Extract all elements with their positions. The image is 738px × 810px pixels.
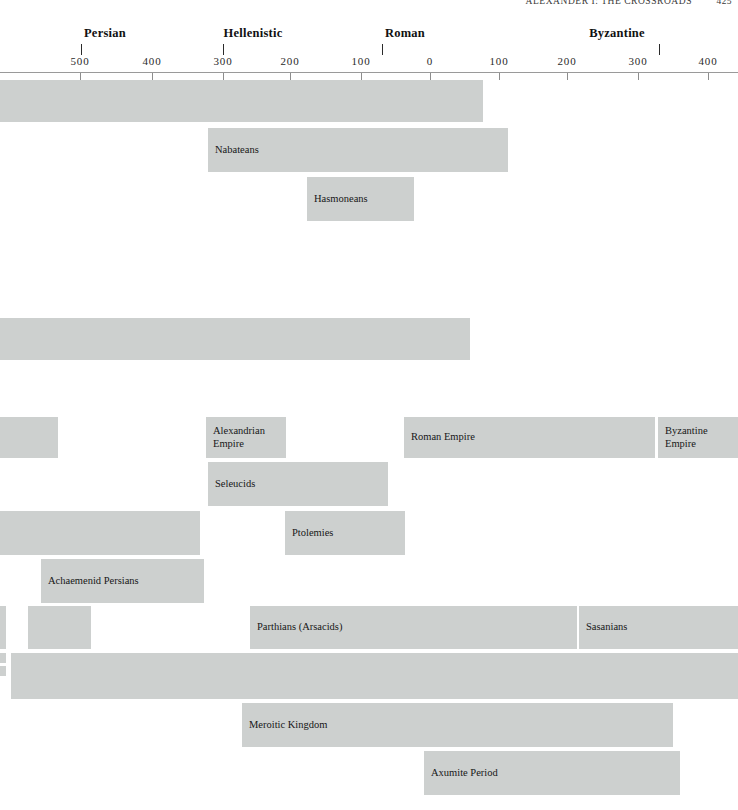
timeline-bar-label: Achaemenid Persians	[48, 575, 139, 588]
axis-tick-label: 200	[280, 55, 299, 67]
axis-tick	[290, 73, 291, 80]
era-label: Byzantine	[589, 26, 645, 41]
axis-tick-label: 400	[698, 55, 717, 67]
timeline-bar: Nabateans	[208, 128, 508, 172]
timeline-bar: Meroitic Kingdom	[242, 703, 673, 747]
timeline-bar: Hasmoneans	[307, 177, 414, 221]
timeline-bar-label: Roman Empire	[411, 431, 475, 444]
axis-tick	[80, 73, 81, 80]
timeline-bar-label: Seleucids	[215, 478, 255, 491]
timeline-bar-unlabeled	[0, 417, 58, 458]
axis-tick	[223, 73, 224, 80]
era-label: Roman	[385, 26, 425, 41]
timeline-bar-unlabeled	[0, 666, 6, 676]
timeline-bar: Axumite Period	[424, 751, 680, 795]
timeline-bar-label: Alexandrian Empire	[213, 425, 265, 450]
era-tick	[382, 44, 383, 55]
axis-tick-label: 100	[351, 55, 370, 67]
timeline-bar-unlabeled	[11, 653, 738, 699]
era-tick	[659, 44, 660, 55]
timeline-bar-label: Axumite Period	[431, 767, 498, 780]
axis-tick-label: 300	[213, 55, 232, 67]
era-label: Hellenistic	[224, 26, 283, 41]
timeline-bar-label: Sasanians	[586, 621, 627, 634]
timeline-bar-label: Nabateans	[215, 144, 259, 157]
timeline-chart: PersianHellenisticRomanByzantine 5004003…	[0, 0, 738, 810]
axis-tick	[638, 73, 639, 80]
timeline-bar: Alexandrian Empire	[206, 417, 286, 458]
axis-tick	[499, 73, 500, 80]
axis-tick-label: 100	[489, 55, 508, 67]
timeline-bar: Roman Empire	[404, 417, 655, 458]
timeline-bar: Sasanians	[579, 606, 738, 649]
axis-tick-label: 0	[427, 55, 433, 67]
era-label: Persian	[84, 26, 126, 41]
timeline-bar: Achaemenid Persians	[41, 559, 204, 603]
axis-tick	[567, 73, 568, 80]
axis-tick	[430, 73, 431, 80]
axis-baseline	[0, 72, 738, 73]
axis-tick-label: 500	[70, 55, 89, 67]
era-tick	[223, 44, 224, 55]
axis-tick	[708, 73, 709, 80]
timeline-bar: Seleucids	[208, 462, 388, 506]
timeline-bar-label: Meroitic Kingdom	[249, 719, 327, 732]
timeline-bar-unlabeled	[0, 318, 470, 360]
timeline-bar-label: Byzantine Empire	[665, 425, 708, 450]
timeline-bar-unlabeled	[0, 653, 6, 663]
timeline-bar-unlabeled	[28, 606, 91, 649]
timeline-bar-label: Ptolemies	[292, 527, 333, 540]
era-tick	[81, 44, 82, 55]
timeline-bar-label: Hasmoneans	[314, 193, 368, 206]
axis-tick-label: 200	[557, 55, 576, 67]
timeline-bar-unlabeled	[0, 511, 200, 555]
timeline-bar-unlabeled	[0, 606, 6, 649]
axis-tick	[152, 73, 153, 80]
axis-tick	[361, 73, 362, 80]
timeline-bar: Parthians (Arsacids)	[250, 606, 577, 649]
timeline-bar: Ptolemies	[285, 511, 405, 555]
axis-tick-label: 300	[628, 55, 647, 67]
axis-tick-label: 400	[142, 55, 161, 67]
timeline-bar: Byzantine Empire	[658, 417, 738, 458]
timeline-bar-unlabeled	[0, 80, 483, 122]
timeline-bar-label: Parthians (Arsacids)	[257, 621, 342, 634]
